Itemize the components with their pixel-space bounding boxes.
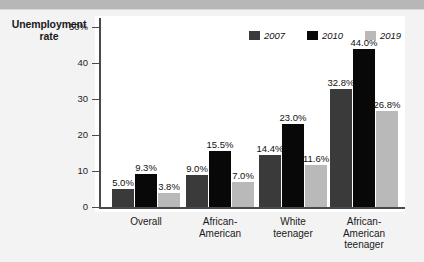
bar-value-label: 26.8% <box>361 99 413 110</box>
legend-label-2007: 2007 <box>264 30 285 41</box>
legend-swatch-2007 <box>249 31 260 40</box>
legend-label-2010: 2010 <box>322 30 343 41</box>
bar-2019-african-american <box>232 182 254 207</box>
bar-2019-overall <box>158 193 180 207</box>
bar-2019-african-american-teenager <box>376 111 398 207</box>
x-axis-label-3: African-Americanteenager <box>319 216 409 251</box>
bar-value-label: 23.0% <box>267 112 319 123</box>
bar-2007-white-teenager <box>259 155 281 207</box>
bar-2019-white-teenager <box>305 165 327 207</box>
x-axis-label-line: African- <box>319 216 409 228</box>
bar-2007-african-american-teenager <box>330 89 352 207</box>
bar-value-label: 15.5% <box>194 139 246 150</box>
x-axis-label-line: American <box>319 228 409 240</box>
bar-value-label: 9.3% <box>120 162 172 173</box>
chart-figure: Unemployment rate 50%403020100 5.0%9.3%3… <box>0 0 424 262</box>
bar-2010-white-teenager <box>282 124 304 207</box>
bar-2007-overall <box>112 189 134 207</box>
bar-2010-african-american-teenager <box>353 49 375 207</box>
legend-label-2019: 2019 <box>380 30 401 41</box>
legend-swatch-2019 <box>365 31 376 40</box>
x-axis-label-line: teenager <box>319 239 409 251</box>
legend-swatch-2010 <box>307 31 318 40</box>
bar-2007-african-american <box>186 175 208 207</box>
